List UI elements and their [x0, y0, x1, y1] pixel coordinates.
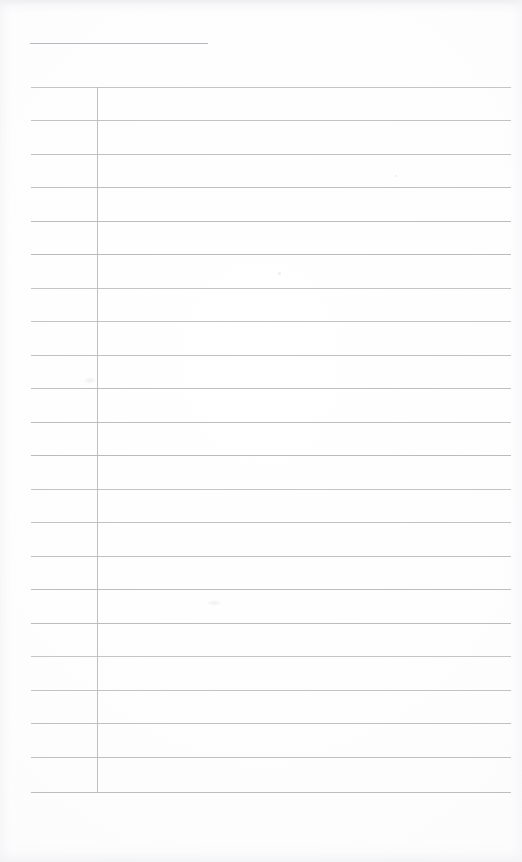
row-right-cell[interactable]: [97, 87, 511, 120]
table-row: [31, 221, 511, 254]
table-row: [31, 556, 511, 589]
row-left-cell[interactable]: [31, 120, 97, 154]
table-row: [31, 355, 511, 388]
row-left-cell[interactable]: [31, 723, 97, 757]
row-left-cell[interactable]: [31, 656, 97, 690]
row-right-cell[interactable]: [97, 690, 511, 723]
table-row: [31, 623, 511, 656]
title-write-area[interactable]: [30, 23, 208, 43]
row-right-cell[interactable]: [97, 455, 511, 489]
row-right-cell[interactable]: [97, 656, 511, 690]
table-row: [31, 321, 511, 355]
header-rule-line: [30, 43, 208, 44]
table-row: [31, 422, 511, 455]
table-row: [31, 589, 511, 623]
table-row: [31, 690, 511, 723]
row-right-cell[interactable]: [97, 723, 511, 757]
row-right-cell[interactable]: [97, 355, 511, 388]
scan-edge-top: [0, 0, 522, 13]
row-left-cell[interactable]: [31, 321, 97, 355]
table-row: [31, 120, 511, 154]
row-left-cell[interactable]: [31, 288, 97, 321]
row-left-cell[interactable]: [31, 623, 97, 656]
row-right-cell[interactable]: [97, 522, 511, 556]
row-right-cell[interactable]: [97, 388, 511, 422]
scan-edge-bottom: [0, 844, 522, 862]
row-right-cell[interactable]: [97, 187, 511, 221]
row-left-cell[interactable]: [31, 388, 97, 422]
row-left-cell[interactable]: [31, 154, 97, 187]
row-right-cell[interactable]: [97, 556, 511, 589]
row-right-cell[interactable]: [97, 422, 511, 455]
row-left-cell[interactable]: [31, 422, 97, 455]
row-left-cell[interactable]: [31, 87, 97, 120]
scan-edge-left: [0, 0, 10, 862]
row-right-cell[interactable]: [97, 120, 511, 154]
row-right-cell[interactable]: [97, 489, 511, 522]
table-row: [31, 757, 511, 792]
table-row: [31, 656, 511, 690]
row-right-cell[interactable]: [97, 154, 511, 187]
row-right-cell[interactable]: [97, 623, 511, 656]
row-left-cell[interactable]: [31, 757, 97, 792]
row-right-cell[interactable]: [97, 288, 511, 321]
row-right-cell[interactable]: [97, 254, 511, 288]
table-row: [31, 288, 511, 321]
row-left-cell[interactable]: [31, 221, 97, 254]
row-left-cell[interactable]: [31, 355, 97, 388]
table-row: [31, 388, 511, 422]
row-left-cell[interactable]: [31, 522, 97, 556]
scanned-page: [0, 0, 522, 862]
row-left-cell[interactable]: [31, 254, 97, 288]
row-right-cell[interactable]: [97, 757, 511, 792]
row-left-cell[interactable]: [31, 187, 97, 221]
row-left-cell[interactable]: [31, 589, 97, 623]
table-row: [31, 489, 511, 522]
row-left-cell[interactable]: [31, 690, 97, 723]
row-left-cell[interactable]: [31, 556, 97, 589]
table-row: [31, 87, 511, 120]
table-row: [31, 723, 511, 757]
ruled-line: [31, 792, 511, 793]
row-right-cell[interactable]: [97, 221, 511, 254]
table-row: [31, 254, 511, 288]
row-right-cell[interactable]: [97, 321, 511, 355]
row-right-cell[interactable]: [97, 589, 511, 623]
row-left-cell[interactable]: [31, 455, 97, 489]
table-row: [31, 154, 511, 187]
table-row: [31, 455, 511, 489]
row-left-cell[interactable]: [31, 489, 97, 522]
table-row: [31, 522, 511, 556]
table-row: [31, 187, 511, 221]
scan-edge-right: [510, 0, 522, 862]
